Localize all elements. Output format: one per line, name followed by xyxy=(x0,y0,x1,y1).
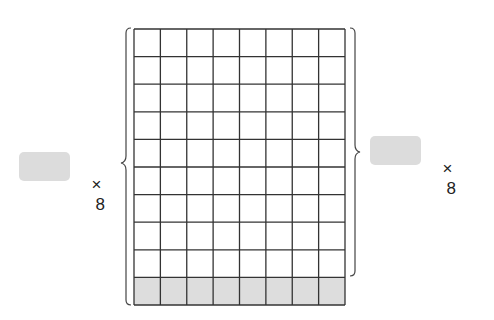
grid-cell xyxy=(266,222,292,250)
grid-cell xyxy=(160,57,186,85)
grid-cell xyxy=(266,250,292,278)
left-operator: × xyxy=(91,175,101,194)
grid-cell xyxy=(213,29,239,57)
grid-cell xyxy=(240,195,266,223)
grid-cell xyxy=(213,195,239,223)
grid-cell xyxy=(319,29,345,57)
grid-cell xyxy=(213,139,239,167)
grid-cell xyxy=(160,112,186,140)
grid-cell xyxy=(134,84,160,112)
grid-cell xyxy=(319,57,345,85)
shaded-grid-cell xyxy=(187,277,213,305)
grid-cell xyxy=(187,29,213,57)
left-brace-icon xyxy=(121,28,131,305)
shaded-grid-cell xyxy=(240,277,266,305)
grid-cell xyxy=(240,29,266,57)
grid-cell xyxy=(292,84,318,112)
grid-cell xyxy=(160,29,186,57)
grid-cell xyxy=(134,195,160,223)
grid-cell xyxy=(240,222,266,250)
grid-cell xyxy=(319,139,345,167)
grid-cell xyxy=(213,84,239,112)
right-brace-icon xyxy=(350,28,360,276)
grid-cell xyxy=(213,112,239,140)
grid-cell xyxy=(187,222,213,250)
grid-cell xyxy=(266,29,292,57)
right-times-label: × 8 xyxy=(433,139,456,199)
grid-cell xyxy=(240,250,266,278)
grid-cell xyxy=(266,139,292,167)
grid-cell xyxy=(134,139,160,167)
grid-cell xyxy=(187,139,213,167)
grid-cell xyxy=(187,84,213,112)
grid-cell xyxy=(319,112,345,140)
grid-cell xyxy=(134,29,160,57)
shaded-grid-cell xyxy=(319,277,345,305)
grid-cell xyxy=(292,112,318,140)
grid-cell xyxy=(187,112,213,140)
grid-cell xyxy=(134,222,160,250)
right-operator: × xyxy=(442,159,452,178)
shaded-grid-cell xyxy=(160,277,186,305)
grid-cell xyxy=(160,250,186,278)
grid-cell xyxy=(187,250,213,278)
shaded-grid-cell xyxy=(292,277,318,305)
grid-cell xyxy=(134,167,160,195)
grid-cell xyxy=(319,84,345,112)
grid-cell xyxy=(187,167,213,195)
grid-cell xyxy=(266,57,292,85)
grid-cell xyxy=(160,222,186,250)
grid-cell xyxy=(134,57,160,85)
left-times-label: × 8 xyxy=(82,155,105,215)
grid-cell xyxy=(292,250,318,278)
grid-cell xyxy=(240,84,266,112)
grid-cell xyxy=(213,57,239,85)
grid-cell xyxy=(266,112,292,140)
grid-cell xyxy=(187,57,213,85)
grid-cell xyxy=(292,57,318,85)
grid-cell xyxy=(160,195,186,223)
grid-cell xyxy=(213,222,239,250)
grid-cell xyxy=(292,222,318,250)
grid-cell xyxy=(213,250,239,278)
shaded-grid-cell xyxy=(266,277,292,305)
grid-cell xyxy=(213,167,239,195)
shaded-grid-cell xyxy=(134,277,160,305)
grid-cell xyxy=(187,195,213,223)
left-multiplier: 8 xyxy=(95,195,104,214)
right-answer-blank[interactable] xyxy=(370,136,421,165)
grid-cell xyxy=(266,167,292,195)
grid-cell xyxy=(240,167,266,195)
right-multiplier: 8 xyxy=(446,179,455,198)
grid-cell xyxy=(319,167,345,195)
grid-cell xyxy=(292,167,318,195)
grid-cell xyxy=(292,139,318,167)
grid-cell xyxy=(266,84,292,112)
shaded-grid-cell xyxy=(213,277,239,305)
grid-cell xyxy=(292,195,318,223)
grid-cell xyxy=(319,195,345,223)
grid-cell xyxy=(134,250,160,278)
grid-cell xyxy=(319,250,345,278)
grid-cell xyxy=(160,167,186,195)
grid-cell xyxy=(160,84,186,112)
grid-cell xyxy=(292,29,318,57)
grid-cell xyxy=(240,112,266,140)
grid-cell xyxy=(266,195,292,223)
grid-cell xyxy=(160,139,186,167)
grid-cell xyxy=(319,222,345,250)
left-answer-blank[interactable] xyxy=(19,152,70,181)
grid-cell xyxy=(134,112,160,140)
grid-cell xyxy=(240,57,266,85)
grid-cell xyxy=(240,139,266,167)
